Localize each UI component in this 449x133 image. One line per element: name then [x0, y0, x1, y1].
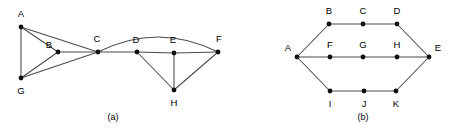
graph-node-D [395, 22, 400, 27]
graph-node-E [427, 55, 432, 60]
graph-node-label-F: F [216, 33, 222, 44]
graph-edge-A-I [297, 57, 330, 91]
graph-node-label-G: G [17, 85, 24, 96]
graph-node-label-C: C [360, 5, 367, 16]
graph-node-J [362, 89, 367, 94]
graph-edge-C-F [98, 37, 218, 52]
graph-node-label-C: C [94, 33, 101, 44]
graph-node-label-E: E [170, 34, 176, 45]
graph-node-label-H: H [171, 97, 178, 108]
panel-a-caption: (a) [108, 112, 119, 122]
graph-node-B [56, 50, 61, 55]
graph-node-label-D: D [394, 5, 401, 16]
graph-node-A [19, 25, 24, 30]
graph-node-label-G: G [359, 39, 366, 50]
graph-node-label-D: D [133, 34, 140, 45]
graph-edge-E-F [174, 52, 218, 53]
graph-edge-G-C [21, 52, 98, 78]
graph-figure: ABCDEFGH (a) ABCDEFGHIJK (b) [0, 0, 449, 133]
graph-edge-A-C [21, 27, 98, 52]
graph-node-A [295, 55, 300, 60]
graph-node-F [216, 50, 221, 55]
graph-edge-D-E [397, 24, 429, 57]
graph-edge-F-H [174, 52, 218, 90]
panel-b: ABCDEFGHIJK (b) [285, 5, 441, 123]
panel-a: ABCDEFGH (a) [17, 8, 222, 123]
graph-edge-A-B [297, 24, 329, 57]
graph-node-H [172, 88, 177, 93]
graph-node-B [327, 22, 332, 27]
graph-node-label-H: H [394, 39, 401, 50]
graph-node-I [328, 89, 333, 94]
graph-edge-K-E [396, 57, 429, 91]
graph-node-label-A: A [285, 42, 292, 53]
graph-node-C [96, 50, 101, 55]
graph-node-label-F: F [327, 39, 333, 50]
graph-node-K [394, 89, 399, 94]
graph-node-label-B: B [46, 39, 52, 50]
graph-node-D [135, 50, 140, 55]
graph-canvas: ABCDEFGH (a) ABCDEFGHIJK (b) [0, 0, 449, 133]
graph-node-E [172, 51, 177, 56]
graph-node-F [328, 55, 333, 60]
panel-a-nodes: ABCDEFGH [17, 8, 222, 108]
panel-b-caption: (b) [358, 112, 369, 122]
graph-node-label-K: K [393, 98, 400, 109]
graph-node-label-E: E [435, 42, 441, 53]
graph-node-H [395, 55, 400, 60]
graph-edge-A-B [21, 27, 58, 52]
graph-node-label-A: A [18, 8, 25, 19]
graph-node-label-B: B [326, 5, 332, 16]
graph-edge-B-G [21, 52, 58, 78]
graph-edge-D-E [137, 52, 174, 53]
panel-a-edges [21, 27, 218, 90]
graph-edge-D-H [137, 52, 174, 90]
graph-node-G [19, 76, 24, 81]
graph-node-label-I: I [329, 98, 332, 109]
graph-node-C [361, 22, 366, 27]
graph-node-G [361, 55, 366, 60]
graph-node-label-J: J [362, 98, 367, 109]
